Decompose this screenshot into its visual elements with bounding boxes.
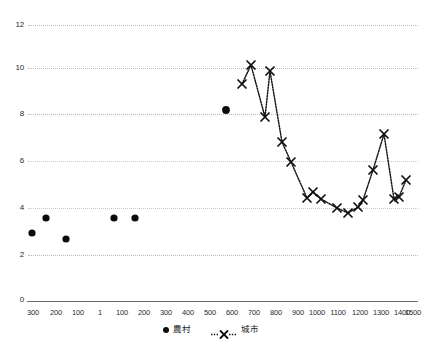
xtick-label-10: 700 xyxy=(243,309,265,317)
xtick-label-2: 100 xyxy=(67,309,89,317)
chart-legend: 農村 城市 xyxy=(0,322,422,337)
xtick-label-5: 200 xyxy=(133,309,155,317)
xtick-label-11: 800 xyxy=(265,309,287,317)
xtick-label-15: 1200 xyxy=(349,309,371,317)
plot-area: 12 10 8 6 4 2 0 xyxy=(0,0,422,339)
x-marker-icon xyxy=(211,325,237,334)
circle-marker-icon xyxy=(163,327,169,333)
legend-label-urban: 城市 xyxy=(241,325,259,334)
xtick-label-8: 500 xyxy=(199,309,221,317)
legend-item-urban[interactable]: 城市 xyxy=(211,325,259,334)
data-series-layer xyxy=(0,0,422,339)
xtick-label-13: 1000 xyxy=(306,309,328,317)
legend-item-rural[interactable]: 農村 xyxy=(163,325,191,334)
xtick-label-14: 1100 xyxy=(327,309,349,317)
xtick-label-9: 600 xyxy=(221,309,243,317)
xtick-label-4: 100 xyxy=(111,309,133,317)
xtick-label-0: 300 xyxy=(22,309,44,317)
rural-series-markers xyxy=(28,106,230,243)
xtick-label-1: 200 xyxy=(45,309,67,317)
xtick-label-16: 1300 xyxy=(370,309,392,317)
xtick-label-3: 1 xyxy=(89,309,111,317)
legend-label-rural: 農村 xyxy=(173,325,191,334)
xtick-label-18: 1500 xyxy=(402,309,422,317)
chart-container: 12 10 8 6 4 2 0 xyxy=(0,0,422,339)
xtick-label-6: 300 xyxy=(155,309,177,317)
xtick-label-7: 400 xyxy=(177,309,199,317)
urban-series-line xyxy=(242,65,406,213)
